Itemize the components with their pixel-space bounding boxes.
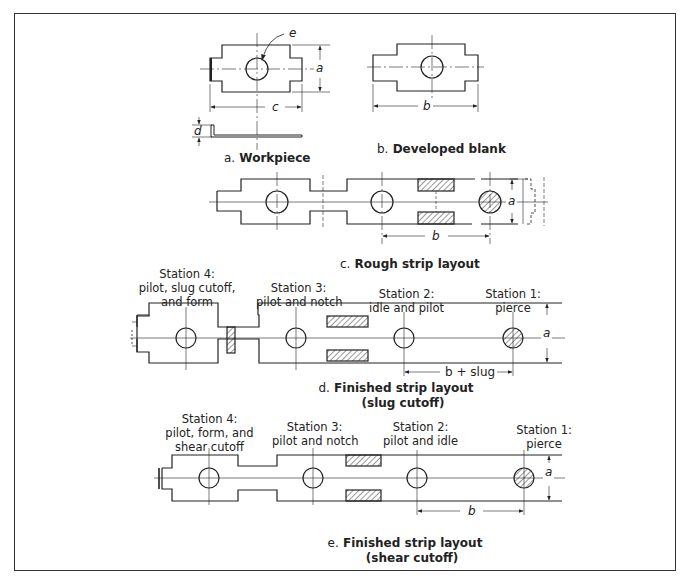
rough-strip-drawing xyxy=(209,172,548,244)
station-4-label-slug: Station 4: pilot, slug cutoff, and form xyxy=(137,267,237,309)
diagram-drawing xyxy=(0,0,692,584)
station-4-label-shear: Station 4: pilot, form, and shear cutoff xyxy=(162,412,257,454)
station-1-label-slug: Station 1: pierce xyxy=(483,287,543,315)
dim-pitch-slug: b + slug xyxy=(443,366,497,379)
finished-strip-shear-drawing xyxy=(154,448,565,515)
dim-b-shear: b xyxy=(466,505,478,518)
dim-a-rough: a xyxy=(506,195,517,208)
station-3-label-slug: Station 3: pilot and notch xyxy=(256,281,341,309)
dim-e: e xyxy=(287,27,298,40)
dim-b-rough: b xyxy=(430,230,442,243)
caption-b: b. Developed blank xyxy=(377,142,506,157)
station-1-label-shear: Station 1: pierce xyxy=(514,423,574,451)
dim-c: c xyxy=(270,101,281,114)
station-2-label-shear: Station 2: pilot and idle xyxy=(378,420,463,448)
dim-a-shear: a xyxy=(543,466,554,479)
dim-a-workpiece: a xyxy=(314,62,325,75)
workpiece-drawing xyxy=(192,33,330,150)
dim-d: d xyxy=(192,125,204,138)
dim-a-slug: a xyxy=(541,327,552,340)
caption-d: d. Finished strip layout (slug cutoff) xyxy=(316,381,476,411)
dim-b-blank: b xyxy=(421,100,433,113)
caption-e: e. Finished strip layout (shear cutoff) xyxy=(325,536,485,566)
station-3-label-shear: Station 3: pilot and notch xyxy=(272,420,357,448)
caption-c: c. Rough strip layout xyxy=(340,257,480,272)
caption-a: a. Workpiece xyxy=(224,151,310,166)
station-2-label-slug: Station 2: idle and pilot xyxy=(364,287,449,315)
